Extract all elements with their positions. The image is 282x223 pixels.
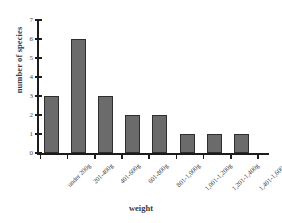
x-tick-2 <box>94 155 96 159</box>
x-tick-label: 1,201-1,400g <box>230 162 260 192</box>
y-tick-label-3: 3 <box>22 93 33 100</box>
y-tick-7 <box>35 19 42 21</box>
y-tick-label-0: 0 <box>22 150 33 157</box>
bar <box>234 134 249 153</box>
x-tick-label: 1,401-1,600g <box>258 162 282 192</box>
y-tick-label-4: 4 <box>22 74 33 81</box>
x-tick-4 <box>148 155 150 159</box>
x-tick-3 <box>121 155 123 159</box>
x-tick-label: 201-400g <box>92 162 115 185</box>
y-tick-label-2: 2 <box>22 112 33 119</box>
y-tick-label-5: 5 <box>22 55 33 62</box>
y-tick-6 <box>35 38 42 40</box>
plot-area: 01234567 under 200g201-400g401-600g601-8… <box>37 20 269 155</box>
y-tick-1 <box>35 133 42 135</box>
x-tick-8 <box>257 155 259 159</box>
x-tick-7 <box>230 155 232 159</box>
x-tick-0 <box>40 155 42 159</box>
y-tick-label-1: 1 <box>22 131 33 138</box>
bar <box>152 115 167 153</box>
bar <box>180 134 195 153</box>
chart-figure: number of species 01234567 under 200g201… <box>0 0 282 223</box>
bar <box>125 115 140 153</box>
x-tick-6 <box>203 155 205 159</box>
x-tick-label: 601-800g <box>146 162 169 185</box>
y-tick-label-7: 7 <box>22 17 33 24</box>
bar <box>98 96 113 153</box>
y-tick-2 <box>35 114 42 116</box>
y-tick-5 <box>35 57 42 59</box>
y-tick-3 <box>35 95 42 97</box>
y-tick-4 <box>35 76 42 78</box>
bar <box>44 96 59 153</box>
x-tick-label: 1,001-1,200g <box>203 162 233 192</box>
x-tick-5 <box>176 155 178 159</box>
x-axis-line <box>37 153 269 155</box>
bar <box>71 39 86 153</box>
bar <box>207 134 222 153</box>
x-tick-label: 401-600g <box>119 162 142 185</box>
y-tick-0 <box>35 152 42 154</box>
x-tick-1 <box>67 155 69 159</box>
x-axis-title: weight <box>0 203 282 213</box>
y-tick-label-6: 6 <box>22 36 33 43</box>
x-tick-label: under 200g <box>66 162 92 188</box>
x-tick-label: 801-1,000g <box>175 162 201 188</box>
